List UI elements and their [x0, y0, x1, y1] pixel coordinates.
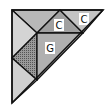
large-triangle-g-piece	[37, 33, 83, 80]
piece-label: C	[81, 14, 88, 25]
piece-label: G	[46, 43, 54, 54]
tangram-diagram: CCG	[0, 0, 111, 107]
piece-label: C	[56, 20, 63, 31]
